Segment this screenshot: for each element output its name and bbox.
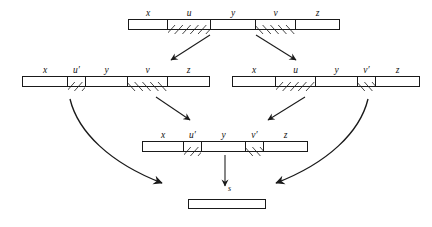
segment-y: y <box>201 142 245 151</box>
arrow-top-to-mid-left <box>171 35 210 60</box>
bar-lower-mid: x u′ y v′ z <box>142 141 308 152</box>
arrow-label-s: s <box>228 185 231 193</box>
segment-label-y: y <box>334 66 338 76</box>
hatch-back-icon <box>358 82 375 91</box>
segment-y: y <box>315 77 357 86</box>
segment-s <box>189 200 265 208</box>
segment-u-prime: u′ <box>67 77 85 86</box>
hatch-forward-icon <box>184 147 201 156</box>
segment-label-x: x <box>146 9 150 19</box>
segment-label-u: u <box>293 66 298 76</box>
hatch-back-icon <box>256 25 295 34</box>
segment-label-v-prime: v′ <box>363 66 369 76</box>
segment-z: z <box>167 77 209 86</box>
segment-z: z <box>375 77 419 86</box>
segment-label-y: y <box>231 9 235 19</box>
segment-z: z <box>295 20 339 29</box>
hatch-forward-icon <box>276 82 315 91</box>
segment-v: v <box>255 20 295 29</box>
bar-top: x u y v z <box>128 19 340 30</box>
hatch-forward-icon <box>68 82 85 91</box>
segment-label-u-prime: u′ <box>73 66 80 76</box>
bar-mid-right: x u y v′ z <box>232 76 420 87</box>
segment-x: x <box>233 77 275 86</box>
segment-label-y: y <box>221 131 225 141</box>
segment-u: u <box>167 20 210 29</box>
segment-y: y <box>210 20 255 29</box>
segment-label-x: x <box>161 131 165 141</box>
segment-v-prime: v′ <box>245 142 263 151</box>
hatch-back-icon <box>246 147 263 156</box>
segment-label-z: z <box>316 9 320 19</box>
hatch-forward-icon <box>168 25 210 34</box>
segment-label-x: x <box>252 66 256 76</box>
segment-label-u-prime: u′ <box>189 131 196 141</box>
segment-label-z: z <box>284 131 288 141</box>
segment-x: x <box>23 77 67 86</box>
hatch-back-icon <box>128 82 167 91</box>
segment-x: x <box>129 20 167 29</box>
segment-v: v <box>127 77 167 86</box>
segment-label-v: v <box>273 9 277 19</box>
segment-label-z: z <box>396 66 400 76</box>
segment-z: z <box>263 142 307 151</box>
segment-label-v-prime: v′ <box>251 131 257 141</box>
arrow-mid-left-to-lower <box>156 97 190 120</box>
bar-final <box>188 199 266 209</box>
derivation-diagram: x u y v z x u′ <box>0 0 432 227</box>
segment-label-v: v <box>145 66 149 76</box>
segment-x: x <box>143 142 183 151</box>
arrow-mid-right-to-lower <box>268 97 305 120</box>
segment-y: y <box>85 77 127 86</box>
segment-u-prime: u′ <box>183 142 201 151</box>
segment-label-z: z <box>187 66 191 76</box>
segment-v-prime: v′ <box>357 77 375 86</box>
segment-label-x: x <box>43 66 47 76</box>
arrows-layer <box>0 0 432 227</box>
segment-label-u: u <box>187 9 192 19</box>
segment-label-y: y <box>104 66 108 76</box>
bar-mid-left: x u′ y v z <box>22 76 210 87</box>
arrow-top-to-mid-right <box>256 35 296 60</box>
segment-u: u <box>275 77 315 86</box>
